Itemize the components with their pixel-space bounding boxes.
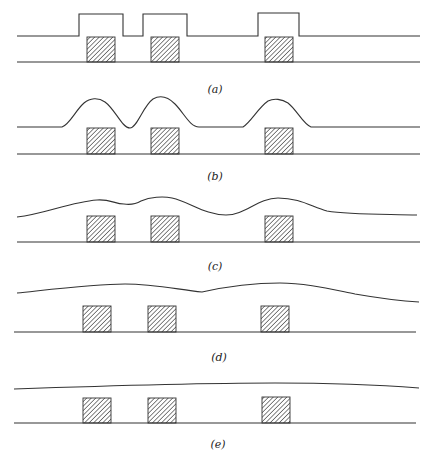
panel-e: (e)	[14, 383, 419, 451]
panel-a: (a)	[17, 13, 420, 96]
feature-block	[148, 398, 176, 423]
surface-profile-b	[17, 97, 420, 128]
feature-block	[87, 37, 115, 62]
feature-block	[151, 128, 179, 154]
surface-profile-d	[17, 283, 419, 302]
panel-c: (c)	[17, 197, 420, 273]
feature-block	[83, 398, 111, 423]
feature-block	[87, 128, 115, 154]
surface-profile-e	[14, 383, 419, 389]
feature-block	[265, 128, 293, 154]
feature-block	[87, 216, 115, 242]
panel-label-d: (d)	[211, 351, 227, 364]
panel-label-a: (a)	[207, 83, 222, 96]
planarization-diagram: (a) (b) (c) (d) (e)	[0, 0, 431, 462]
feature-block	[265, 37, 293, 62]
panel-label-c: (c)	[208, 260, 223, 273]
panel-label-e: (e)	[210, 438, 225, 451]
feature-block	[148, 306, 176, 332]
feature-block	[151, 216, 179, 242]
surface-profile-c	[17, 197, 417, 217]
surface-profile-a	[17, 13, 420, 36]
feature-block	[83, 306, 111, 332]
feature-block	[261, 306, 289, 332]
feature-block	[151, 37, 179, 62]
panel-b: (b)	[17, 97, 420, 183]
panel-d: (d)	[14, 283, 419, 364]
feature-block	[262, 397, 290, 423]
feature-block	[265, 216, 293, 242]
panel-label-b: (b)	[207, 170, 223, 183]
